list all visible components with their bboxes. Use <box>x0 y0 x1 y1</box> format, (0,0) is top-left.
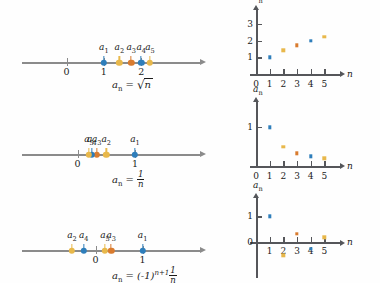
number-line-point-stem <box>88 148 89 155</box>
plot-x-tick-label: 5 <box>321 246 327 256</box>
number-line-alternating-one-over-n: 01a1a2a3a4a5an=(-1)n+11n <box>0 188 222 281</box>
plot-data-point <box>268 215 271 218</box>
plot-x-tick <box>324 69 325 74</box>
plot-y-tick <box>257 127 262 128</box>
plot-data-point <box>268 126 271 129</box>
plot-data-point <box>282 145 285 148</box>
plot-y-axis-arrow-icon <box>253 97 259 102</box>
number-line-tick <box>96 246 97 254</box>
number-line-one-over-n: 01a1a2a3a4a5an=1n <box>0 92 222 185</box>
number-line-point-stem <box>149 56 150 63</box>
plot-data-point <box>282 49 285 52</box>
plot-x-axis <box>250 166 340 168</box>
number-line-tick <box>67 58 68 66</box>
plot-y-axis-arrow-icon <box>253 193 259 198</box>
number-line-point-label: a2 <box>101 134 111 147</box>
plot-x-tick <box>283 69 284 74</box>
plot-y-axis-name: an <box>253 180 263 193</box>
plot-x-tick-label: 5 <box>321 171 327 181</box>
plot-y-tick-label: 1 <box>245 122 253 132</box>
scatter-plot-one-over-n: ann0123451 <box>242 92 350 185</box>
number-line-tick-label: 1 <box>101 66 107 77</box>
plot-x-tick-label: 4 <box>308 79 314 89</box>
plot-x-axis-arrow-icon <box>340 71 345 77</box>
formula-sqrt-n: an=√n <box>112 78 153 93</box>
scatter-plot-alternating-one-over-n: ann1234510 <box>242 188 350 281</box>
fraction-denominator: n <box>169 276 177 283</box>
plot-x-tick <box>324 161 325 166</box>
plot-data-point <box>309 155 312 158</box>
plot-y-tick-label: 3 <box>245 19 253 29</box>
plot-x-tick-label: 1 <box>267 79 273 89</box>
number-line-tick-label: 2 <box>138 66 144 77</box>
number-line-point-label: a5 <box>84 134 94 147</box>
number-line-point-label: a3 <box>126 42 136 55</box>
number-line-point-label: a2 <box>115 42 125 55</box>
plot-data-point <box>295 151 298 154</box>
number-line-point-stem <box>134 148 135 155</box>
number-line-point-label: a4 <box>79 230 89 243</box>
formula-one-over-n: an=1n <box>112 170 144 189</box>
plot-data-point <box>282 254 285 257</box>
plot-y-tick <box>257 57 262 58</box>
number-line-arrow-icon <box>200 59 206 65</box>
plot-x-axis-arrow-icon <box>340 163 345 169</box>
plot-data-point <box>309 247 312 250</box>
number-line-point-stem <box>103 56 104 63</box>
plot-x-tick-label: 3 <box>294 79 300 89</box>
plot-x-tick <box>270 69 271 74</box>
number-line-point-stem <box>131 56 132 63</box>
plot-x-tick-label: 4 <box>308 171 314 181</box>
plot-x-axis-name: n <box>347 161 353 171</box>
plot-x-axis <box>250 242 340 244</box>
plot-x-tick-label: 2 <box>280 171 286 181</box>
plot-x-tick <box>297 69 298 74</box>
formula-subscript: n <box>118 276 123 283</box>
number-line-sqrt-n: 012a1a2a3a4a5an=√n <box>0 0 222 93</box>
plot-x-tick <box>311 161 312 166</box>
number-line-point-stem <box>119 56 120 63</box>
number-line-point-stem <box>106 148 107 155</box>
plot-x-tick <box>311 237 312 242</box>
plot-y-tick <box>257 216 262 217</box>
plot-data-point <box>295 43 298 46</box>
number-line-tick-label: 1 <box>140 254 146 265</box>
plot-y-axis-arrow-icon <box>253 5 259 10</box>
number-line-point-stem <box>96 148 97 155</box>
number-line-point-label: a1 <box>130 134 140 147</box>
number-line-point-stem <box>104 244 105 251</box>
plot-x-tick-label: 1 <box>267 171 273 181</box>
plot-x-tick-label: 2 <box>280 79 286 89</box>
plot-x-axis-name: n <box>347 237 353 247</box>
formula-exponent: n+1 <box>154 269 169 277</box>
number-line-axis <box>22 154 200 156</box>
plot-data-point <box>268 56 271 59</box>
plot-x-tick <box>297 161 298 166</box>
plot-data-point <box>309 39 312 42</box>
sequence-row-alternating-one-over-n: 01a1a2a3a4a5an=(-1)n+11nann1234510 <box>0 188 380 281</box>
number-line-tick-label: 0 <box>92 254 98 265</box>
plot-x-tick <box>270 161 271 166</box>
plot-y-tick-label: 1 <box>245 211 253 221</box>
plot-x-tick <box>283 161 284 166</box>
plot-data-point <box>323 35 326 38</box>
plot-y-axis-name: an <box>253 0 263 5</box>
number-line-point-stem <box>71 244 72 251</box>
plot-x-tick <box>311 69 312 74</box>
plot-data-point <box>323 157 326 160</box>
formula-base: (-1) <box>137 270 155 281</box>
number-line-point-label: a2 <box>67 230 77 243</box>
number-line-point-label: a5 <box>145 42 155 55</box>
number-line-point-stem <box>83 244 84 251</box>
radicand: n <box>144 78 153 90</box>
number-line-arrow-icon <box>200 151 206 157</box>
number-line-axis <box>22 62 200 64</box>
formula-fraction: 1n <box>169 266 177 283</box>
plot-x-axis-arrow-icon <box>340 240 345 246</box>
plot-x-tick-label: 5 <box>321 79 327 89</box>
formula-fraction: 1n <box>137 170 145 189</box>
plot-y-tick-label: 2 <box>245 36 253 46</box>
scatter-plot-sqrt-n: ann012345123 <box>242 0 350 93</box>
number-line-tick-label: 0 <box>75 158 81 169</box>
number-line-tick-label: 1 <box>132 158 138 169</box>
